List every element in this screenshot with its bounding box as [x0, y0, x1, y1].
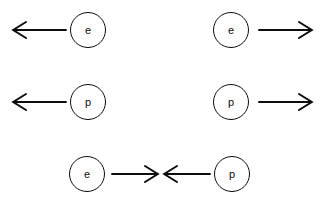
particle-proton-row2-right: p	[213, 84, 249, 120]
particle-label: e	[84, 169, 90, 180]
particle-electron-row3-left: e	[69, 156, 105, 192]
particle-label: p	[228, 97, 234, 108]
particle-electron-row1-left: e	[70, 12, 106, 48]
particle-electron-row1-right: e	[213, 12, 249, 48]
arrow-right-row3	[110, 164, 160, 184]
arrow-right-row2	[256, 92, 314, 112]
particle-proton-row2-left: p	[70, 84, 106, 120]
arrow-left-row3	[162, 164, 212, 184]
arrow-left-row1	[11, 20, 69, 40]
particle-label: e	[85, 25, 91, 36]
arrow-right-row1	[256, 20, 314, 40]
particle-label: e	[228, 25, 234, 36]
particle-proton-row3-right: p	[214, 156, 250, 192]
particle-label: p	[229, 169, 235, 180]
particle-label: p	[85, 97, 91, 108]
particle-direction-diagram: e e p p e	[0, 0, 324, 207]
arrow-left-row2	[11, 92, 69, 112]
